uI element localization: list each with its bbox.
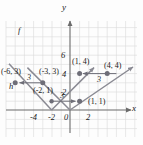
graph-canvas <box>0 0 143 145</box>
point-label-1-1: (1, 1) <box>88 98 105 106</box>
y-tick-6: 6 <box>61 51 65 60</box>
point-label-1-4: (1, 4) <box>72 58 89 66</box>
y-tick-4: 4 <box>62 70 66 79</box>
point-neg2-1 <box>49 99 53 103</box>
point-1-1 <box>77 99 82 104</box>
distance-label-upper: 3 <box>97 76 101 84</box>
x-tick--4: -4 <box>30 113 37 122</box>
distance-label-mid: 3 <box>60 92 64 100</box>
distance-label-lower: 3 <box>27 74 31 82</box>
point-label-neg3-3: (-3, 3) <box>39 68 59 76</box>
point-1-4 <box>77 71 82 76</box>
point-neg3-3 <box>40 80 45 85</box>
point-4-4 <box>105 71 110 76</box>
point-label-4-4: (4, 4) <box>104 62 121 70</box>
point-label-neg2-1: (-2, 1) <box>33 87 53 95</box>
curve-label-f: f <box>18 26 20 35</box>
x-axis-label: x <box>132 104 136 113</box>
x-tick--2: -2 <box>48 113 55 122</box>
point-neg6-3 <box>13 80 18 85</box>
axis-lines <box>6 21 131 133</box>
y-axis-label: y <box>62 3 66 12</box>
x-tick-0: 0 <box>64 113 68 122</box>
grid-lines <box>6 21 137 137</box>
curve-label-h: h <box>9 82 13 91</box>
point-label-neg6-3: (-6, 3) <box>1 68 21 76</box>
coordinate-plane-figure: y x -4 -2 0 2 2 4 6 f h (-6, 3) (-3, 3) … <box>0 0 143 145</box>
x-tick-2: 2 <box>86 113 90 122</box>
